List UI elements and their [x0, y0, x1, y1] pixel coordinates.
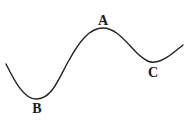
label-b: B [32, 101, 41, 116]
label-a: A [98, 13, 109, 28]
curve-diagram: A B C [0, 0, 196, 124]
label-c: C [148, 65, 158, 80]
wave-curve [6, 28, 183, 99]
